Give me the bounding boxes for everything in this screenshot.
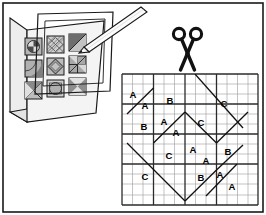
grid-piece-label-b-13: B [198, 172, 205, 183]
quilting-illustration: AABCBAACCAABCBAA [0, 0, 266, 215]
block-6 [69, 56, 86, 73]
grid-piece-label-c-8: C [166, 150, 173, 161]
block-7 [25, 82, 42, 99]
grid-piece-label-a-10: A [203, 155, 210, 166]
book-spine [10, 18, 27, 122]
grid-piece-label-a-9: A [190, 144, 197, 155]
grid-piece-label-b-11: B [225, 146, 232, 157]
block-4 [25, 60, 42, 77]
block-5 [47, 58, 64, 75]
grid-piece-label-a-6: A [173, 127, 180, 138]
cutting-grid: AABCBAACCAABCBAA [122, 74, 258, 205]
grid-piece-label-b-2: B [167, 95, 174, 106]
scissors-pivot [185, 52, 190, 57]
grid-piece-label-a-15: A [229, 181, 236, 192]
grid-piece-label-a-5: A [161, 116, 168, 127]
pattern-book [10, 18, 104, 122]
block-grid [25, 34, 86, 99]
grid-piece-label-a-0: A [130, 89, 137, 100]
block-8 [47, 80, 64, 97]
illustration-canvas: AABCBAACCAABCBAA [0, 0, 266, 215]
grid-piece-label-c-7: C [198, 117, 205, 128]
grid-piece-label-c-12: C [142, 171, 149, 182]
grid-piece-label-b-4: B [141, 121, 148, 132]
grid-piece-label-a-1: A [142, 100, 149, 111]
block-2 [47, 36, 64, 53]
grid-piece-label-a-14: A [217, 169, 224, 180]
grid-piece-label-c-3: C [221, 98, 228, 109]
block-1 [25, 38, 42, 55]
